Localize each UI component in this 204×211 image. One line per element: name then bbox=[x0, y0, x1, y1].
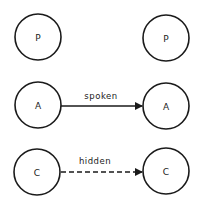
edge-spoken: spoken bbox=[61, 91, 142, 106]
node-label: P bbox=[163, 34, 169, 44]
node-label: A bbox=[35, 101, 42, 111]
node-p-left: P bbox=[15, 14, 61, 60]
edge-label-hidden: hidden bbox=[79, 156, 111, 166]
node-a-right: A bbox=[143, 83, 189, 129]
edge-hidden: hidden bbox=[61, 156, 142, 172]
node-label: P bbox=[35, 33, 41, 43]
diagram-canvas: P P A A spoken C C hidden bbox=[0, 0, 204, 211]
node-a-left: A bbox=[15, 82, 61, 128]
node-c-left: C bbox=[14, 149, 60, 195]
edge-label-spoken: spoken bbox=[84, 91, 117, 101]
node-label: C bbox=[163, 167, 169, 177]
node-label: A bbox=[163, 102, 170, 112]
node-p-right: P bbox=[143, 15, 189, 61]
node-c-right: C bbox=[143, 148, 189, 194]
node-label: C bbox=[34, 168, 40, 178]
